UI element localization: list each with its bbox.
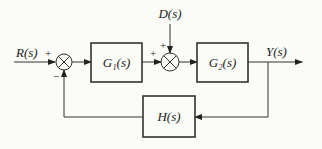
summing-junction-1: −	[53, 54, 72, 82]
sum1-plus-sign: +	[45, 47, 51, 59]
g1-label: G₁(s)	[103, 55, 131, 70]
block-g2: G₂(s)	[197, 43, 248, 82]
block-g1: G₁(s)	[91, 43, 142, 82]
output-label: Y(s)	[266, 44, 287, 59]
g2-label: G₂(s)	[209, 55, 237, 70]
sum2-plus-sign-disturbance: +	[160, 39, 166, 51]
sum1-minus-sign: −	[53, 70, 59, 82]
disturbance-label: D(s)	[157, 6, 181, 21]
input-label: R(s)	[15, 45, 38, 60]
h-label: H(s)	[156, 109, 180, 124]
input-signal-r: R(s) +	[14, 45, 55, 62]
block-diagram: R(s) + − G₁(s) + D(s) + G₂(s) Y(s)	[0, 0, 322, 149]
disturbance-signal-d: D(s) +	[157, 6, 181, 53]
sum2-plus-sign-forward: +	[150, 47, 156, 59]
output-signal-y: Y(s)	[248, 44, 302, 62]
summing-junction-2	[161, 53, 179, 71]
